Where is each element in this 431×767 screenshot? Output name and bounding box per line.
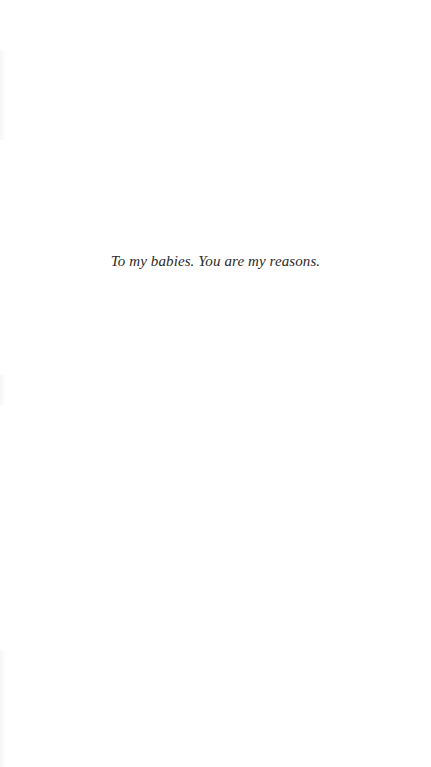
- page-edge-shadow: [0, 50, 6, 140]
- dedication-text: To my babies. You are my reasons.: [0, 253, 431, 270]
- page-edge-shadow: [0, 375, 6, 405]
- page-edge-shadow: [0, 650, 6, 767]
- book-page: To my babies. You are my reasons.: [0, 0, 431, 767]
